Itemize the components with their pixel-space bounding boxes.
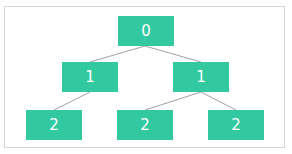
edge-root-l1a <box>90 46 145 62</box>
node-label: 1 <box>196 68 206 86</box>
node-label: 1 <box>85 68 95 86</box>
edge-l1a-l2a <box>54 92 90 110</box>
node-label: 2 <box>231 116 241 134</box>
node-label: 0 <box>141 22 151 40</box>
edge-l1b-l2b <box>145 92 201 110</box>
node-label: 2 <box>140 116 150 134</box>
tree-node-level2-a: 2 <box>26 110 82 140</box>
tree-node-level1-left: 1 <box>62 62 118 92</box>
tree-node-level2-c: 2 <box>208 110 264 140</box>
tree-node-root: 0 <box>118 16 174 46</box>
edge-l1b-l2c <box>201 92 236 110</box>
node-label: 2 <box>49 116 59 134</box>
edge-root-l1b <box>145 46 201 62</box>
tree-node-level2-b: 2 <box>117 110 173 140</box>
tree-node-level1-right: 1 <box>173 62 229 92</box>
